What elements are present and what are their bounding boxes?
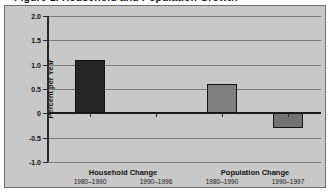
category-group: Population Change: [195, 168, 315, 177]
y-tick-label: 2.0: [31, 13, 41, 20]
y-tick-label: 0.5: [31, 86, 41, 93]
category-group: Household Change: [63, 168, 183, 177]
period-label: 1990–1996: [126, 178, 186, 185]
chart-panel: Percent per Year 2.01.51.00.50-0.5-1.0 H…: [4, 5, 326, 188]
period-label: 1980–1990: [60, 178, 120, 185]
y-tick-mark: [43, 162, 48, 163]
x-tick-mark: [288, 113, 289, 117]
x-tick-mark: [156, 113, 157, 117]
period-label: 1980–1990: [192, 178, 252, 185]
x-tick-mark: [222, 113, 223, 117]
y-tick-label: 1.0: [31, 61, 41, 68]
y-tick-label: 0: [37, 110, 41, 117]
gridline: [47, 162, 321, 163]
category-group-name: Population Change: [195, 168, 315, 177]
y-tick-label: -1.0: [29, 159, 41, 166]
period-label: 1990–1997: [258, 178, 318, 185]
figure-container: Figure 1. Household and Population Growt…: [0, 0, 331, 193]
plot-area: Percent per Year 2.01.51.00.50-0.5-1.0: [47, 16, 321, 162]
x-tick-mark: [90, 113, 91, 117]
y-tick-label: -0.5: [29, 134, 41, 141]
figure-title: Figure 1. Household and Population Growt…: [14, 0, 237, 3]
x-axis-ticks: [47, 16, 321, 162]
category-group-name: Household Change: [63, 168, 183, 177]
y-tick-label: 1.5: [31, 37, 41, 44]
